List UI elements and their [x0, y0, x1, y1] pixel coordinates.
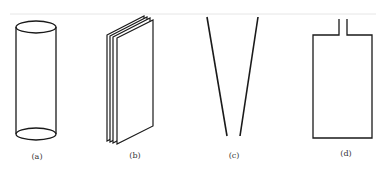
diagram-canvas: [0, 0, 384, 175]
panel-label-b: (b): [129, 151, 140, 160]
cylinder-shape: [16, 21, 56, 140]
panel-label-c: (c): [229, 151, 240, 160]
panel-label-a: (a): [31, 152, 42, 161]
stacked-plates-shape: [107, 16, 153, 144]
vessel-shape: [313, 19, 372, 138]
converging-lines-shape: [207, 17, 258, 136]
panel-label-d: (d): [340, 149, 351, 158]
